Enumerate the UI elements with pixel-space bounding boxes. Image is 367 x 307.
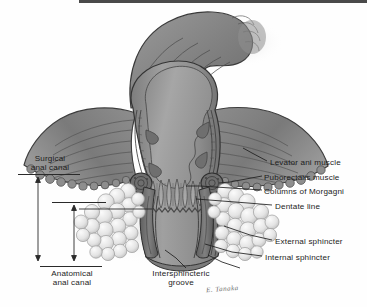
label-anatomical-anal-canal-line2: anal canal (36, 278, 108, 287)
label-surgical-anal-canal-line1: Surgical (35, 154, 66, 163)
measurement-arrows (36, 177, 77, 261)
label-levator-ani-muscle: Levator ani muscle (270, 158, 341, 167)
label-anatomical-anal-canal-line1: Anatomical (51, 269, 93, 278)
label-external-sphincter: External sphincter (275, 237, 343, 246)
anatomical-anal-canal-top-cap (52, 202, 106, 203)
label-surgical-anal-canal: Surgical anal canal (14, 154, 86, 172)
label-internal-sphincter: Internal sphincter (265, 253, 330, 262)
anatomical-anal-canal-bottom-cap (40, 266, 102, 267)
label-anatomical-anal-canal: Anatomical anal canal (36, 269, 108, 287)
label-columns-of-morgagni: Columns of Morgagni (264, 187, 344, 196)
label-surgical-anal-canal-line2: anal canal (14, 163, 86, 172)
label-intersphincteric-groove: Intersphincteric groove (133, 269, 229, 287)
label-puborectalis-muscle: Puborectalis muscle (264, 173, 340, 182)
surgical-anal-canal-top-cap (18, 174, 80, 175)
label-dentate-line: Dentate line (275, 202, 320, 211)
anatomical-anal-canal-arrow (72, 205, 77, 261)
label-intersphincteric-groove-line1: Intersphincteric (152, 269, 209, 278)
anatomy-figure: Levator ani muscle Puborectalis muscle C… (0, 0, 367, 307)
surgical-anal-canal-arrow (36, 177, 41, 261)
